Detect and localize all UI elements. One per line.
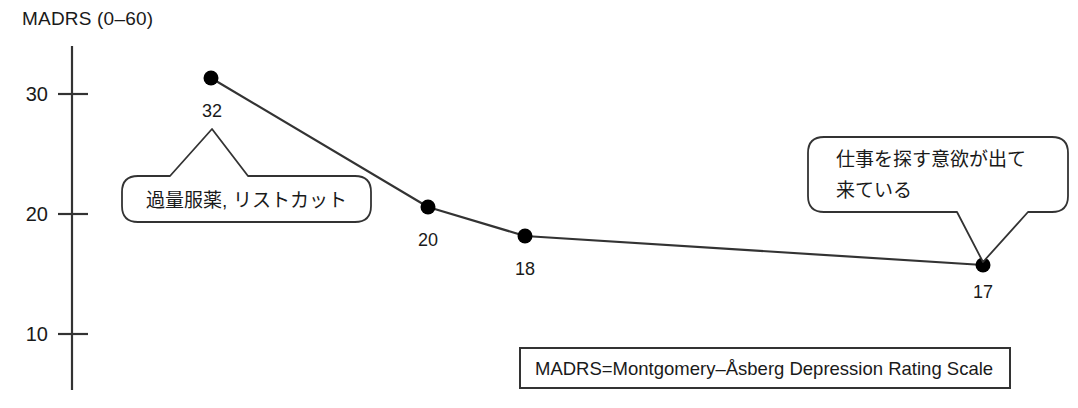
y-tick-label-20: 20	[2, 203, 48, 226]
callout-motivation-text: 仕事を探す意欲が出て 来ている	[836, 144, 1026, 206]
data-point-label-3: 18	[495, 259, 555, 280]
data-point-label-4: 17	[953, 282, 1013, 303]
data-point-label-2: 20	[398, 230, 458, 251]
y-tick-label-30: 30	[2, 83, 48, 106]
madrs-line-chart: MADRS (0–60) 30 20 10 32 20 18 17 過量	[0, 0, 1078, 408]
data-point-label-1: 32	[182, 101, 242, 122]
callout-overdose-text: 過量服薬, リストカット	[146, 185, 347, 216]
data-point-marker	[421, 200, 436, 215]
data-point-marker	[518, 229, 533, 244]
footnote-label: MADRS=Montgomery–Åsberg Depression Ratin…	[535, 358, 993, 380]
data-point-marker	[204, 71, 219, 86]
y-tick-label-10: 10	[2, 323, 48, 346]
